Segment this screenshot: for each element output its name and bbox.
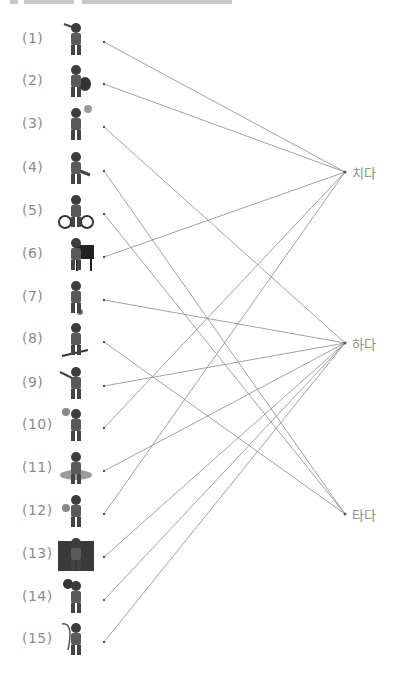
item-number-label: (7) bbox=[22, 288, 43, 304]
target-tada[interactable]: 타다 bbox=[352, 505, 376, 524]
left-item-7: (7) bbox=[0, 278, 100, 318]
left-endpoint-dot[interactable] bbox=[103, 427, 105, 429]
left-item-13: (13) bbox=[0, 535, 100, 575]
item-number-label: (6) bbox=[22, 245, 43, 261]
connection-line-3-hada bbox=[104, 127, 345, 343]
left-item-4: (4) bbox=[0, 149, 100, 189]
left-endpoint-dot[interactable] bbox=[103, 41, 105, 43]
left-endpoint-dot[interactable] bbox=[103, 385, 105, 387]
connection-line-15-hada bbox=[104, 343, 345, 642]
right-endpoint-dot[interactable] bbox=[344, 513, 347, 516]
fishing-icon bbox=[58, 620, 94, 658]
basketball-player-icon bbox=[58, 578, 94, 616]
left-endpoint-dot[interactable] bbox=[103, 256, 105, 258]
left-endpoint-dot[interactable] bbox=[103, 126, 105, 128]
volleyball-player-icon bbox=[58, 105, 94, 143]
item-number-label: (12) bbox=[22, 502, 53, 518]
connection-line-10-chida bbox=[104, 172, 345, 428]
item-number-label: (5) bbox=[22, 202, 43, 218]
connection-line-5-tada bbox=[104, 214, 345, 514]
ice-skater-icon bbox=[58, 149, 94, 187]
connection-line-6-chida bbox=[104, 172, 345, 257]
item-number-label: (13) bbox=[22, 545, 53, 561]
left-endpoint-dot[interactable] bbox=[103, 83, 105, 85]
golf-player-icon bbox=[58, 20, 94, 58]
item-number-label: (3) bbox=[22, 115, 43, 131]
connection-line-11-hada bbox=[104, 343, 345, 471]
left-endpoint-dot[interactable] bbox=[103, 341, 105, 343]
connection-line-2-chida bbox=[104, 84, 345, 172]
swimmer-icon bbox=[58, 449, 94, 487]
left-item-2: (2) bbox=[0, 62, 100, 102]
left-item-6: (6) bbox=[0, 235, 100, 275]
item-number-label: (14) bbox=[22, 588, 53, 604]
target-chida[interactable]: 치다 bbox=[352, 163, 376, 182]
left-endpoint-dot[interactable] bbox=[103, 470, 105, 472]
left-item-11: (11) bbox=[0, 449, 100, 489]
left-endpoint-dot[interactable] bbox=[103, 556, 105, 558]
badminton-player-icon bbox=[58, 406, 94, 444]
item-number-label: (2) bbox=[22, 72, 43, 88]
connection-line-7-hada bbox=[104, 300, 345, 343]
left-item-5: (5) bbox=[0, 192, 100, 232]
left-item-12: (12) bbox=[0, 492, 100, 532]
left-item-3: (3) bbox=[0, 105, 100, 145]
item-number-label: (8) bbox=[22, 330, 43, 346]
soccer-player-icon bbox=[58, 278, 94, 316]
skier-icon bbox=[58, 320, 94, 358]
item-number-label: (10) bbox=[22, 416, 53, 432]
left-item-9: (9) bbox=[0, 364, 100, 404]
connection-line-1-chida bbox=[104, 42, 345, 172]
connection-line-13-hada bbox=[104, 343, 345, 557]
connection-line-8-tada bbox=[104, 342, 345, 514]
left-endpoint-dot[interactable] bbox=[103, 299, 105, 301]
left-item-10: (10) bbox=[0, 406, 100, 446]
connection-line-14-hada bbox=[104, 343, 345, 600]
item-number-label: (1) bbox=[22, 30, 43, 46]
right-endpoint-dot[interactable] bbox=[344, 171, 347, 174]
item-number-label: (11) bbox=[22, 459, 53, 475]
item-number-label: (15) bbox=[22, 630, 53, 646]
left-endpoint-dot[interactable] bbox=[103, 641, 105, 643]
left-item-14: (14) bbox=[0, 578, 100, 618]
left-endpoint-dot[interactable] bbox=[103, 213, 105, 215]
violin-player-icon bbox=[58, 62, 94, 100]
target-hada[interactable]: 하다 bbox=[352, 334, 376, 353]
baseball-batter-icon bbox=[58, 364, 94, 402]
item-number-label: (9) bbox=[22, 374, 43, 390]
right-endpoint-dot[interactable] bbox=[344, 342, 347, 345]
item-number-label: (4) bbox=[22, 159, 43, 175]
tennis-player-icon bbox=[58, 492, 94, 530]
hiker-icon bbox=[58, 535, 94, 573]
left-item-15: (15) bbox=[0, 620, 100, 660]
bicycle-rider-icon bbox=[58, 192, 94, 230]
connection-line-9-hada bbox=[104, 343, 345, 386]
left-item-1: (1) bbox=[0, 20, 100, 60]
piano-player-icon bbox=[58, 235, 94, 273]
left-endpoint-dot[interactable] bbox=[103, 170, 105, 172]
left-item-8: (8) bbox=[0, 320, 100, 360]
left-endpoint-dot[interactable] bbox=[103, 513, 105, 515]
left-endpoint-dot[interactable] bbox=[103, 599, 105, 601]
